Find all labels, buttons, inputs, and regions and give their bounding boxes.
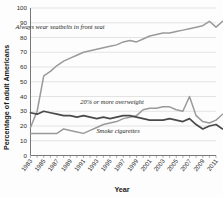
series-annotation-0: Always wear seatbelts in front seat xyxy=(14,23,104,30)
x-tick-label: 1989 xyxy=(59,157,73,173)
y-tick-label: 80 xyxy=(20,34,27,41)
x-tick-label: 1993 xyxy=(86,157,100,173)
x-tick-label: 1985 xyxy=(33,157,47,173)
x-tick-label: 1997 xyxy=(112,157,126,173)
x-tick-label: 2009 xyxy=(192,157,206,173)
y-tick-label: 40 xyxy=(20,93,27,100)
x-tick-label: 1983 xyxy=(19,157,33,173)
x-tick-label: 1995 xyxy=(99,157,113,173)
x-tick-label: 1999 xyxy=(125,157,139,173)
series-annotation-2: Smoke cigarettes xyxy=(96,127,140,134)
x-tick-label: 2007 xyxy=(178,157,192,173)
y-tick-label: 10 xyxy=(20,137,27,144)
y-tick-label: 30 xyxy=(20,107,27,114)
chart-container: 0102030405060708090100 19831985198719891… xyxy=(0,0,223,197)
series-line-0 xyxy=(31,21,223,127)
data-series-group xyxy=(31,21,223,133)
x-tick-label: 2011 xyxy=(205,157,219,172)
y-tick-label: 20 xyxy=(20,122,27,129)
line-chart: 0102030405060708090100 19831985198719891… xyxy=(0,0,223,197)
y-axis-title: Percentage of adult Americans xyxy=(2,45,11,150)
y-tick-label: 60 xyxy=(20,63,27,70)
x-axis-title: Year xyxy=(114,185,129,194)
x-tick-label: 1991 xyxy=(72,157,86,173)
x-axis-tick-labels: 1983198519871989199119931995199719992001… xyxy=(19,157,219,173)
y-tick-label: 100 xyxy=(17,4,28,11)
x-tick-label: 2003 xyxy=(152,157,166,173)
y-tick-label: 50 xyxy=(20,78,27,85)
y-tick-label: 70 xyxy=(20,48,27,55)
series-annotation-1: 20% or more overweight xyxy=(80,98,144,105)
x-tick-label: 1987 xyxy=(46,157,60,173)
x-tick-label: 2001 xyxy=(139,157,153,173)
x-tick-label: 2005 xyxy=(165,157,179,173)
